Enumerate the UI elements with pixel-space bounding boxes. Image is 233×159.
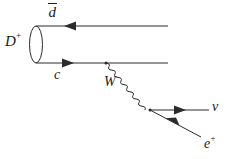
positron-arrowhead-icon xyxy=(166,117,180,125)
feynman-diagram: D+ d c W ν e+ xyxy=(0,0,233,159)
label-charm-quark: c xyxy=(54,68,60,82)
label-positron: e+ xyxy=(204,135,215,151)
label-positron-charge: + xyxy=(210,133,215,143)
label-neutrino: ν xyxy=(212,100,218,114)
neutrino-arrowhead-icon xyxy=(174,106,186,115)
antiquark-arrowhead-icon xyxy=(64,22,76,31)
w-vertex-top-dot xyxy=(105,62,108,65)
label-antidown-quark-symbol: d xyxy=(49,3,57,20)
label-d-meson: D+ xyxy=(5,33,21,49)
meson-blob-ellipse xyxy=(30,26,43,63)
positron-line xyxy=(150,110,201,137)
label-antidown-quark: d xyxy=(48,3,57,20)
feynman-diagram-canvas xyxy=(0,0,233,159)
label-d-meson-charge: + xyxy=(16,31,21,41)
label-d-meson-symbol: D xyxy=(5,33,16,49)
quark-arrowhead-icon xyxy=(62,59,74,68)
label-w-boson: W xyxy=(104,75,116,89)
antiquark-overbar-icon: d xyxy=(48,3,57,20)
